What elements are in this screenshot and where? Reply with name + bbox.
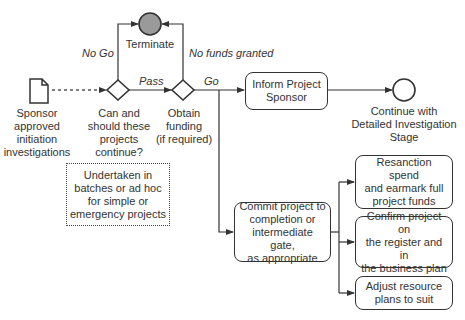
end-circle xyxy=(393,79,415,101)
decision-funding-label: Obtain funding (if required) xyxy=(153,107,215,146)
adjust-box: Adjust resource plans to suit xyxy=(355,276,453,310)
end-label: Continue with Detailed Investigation Sta… xyxy=(344,105,464,144)
edge-label-pass: Pass xyxy=(139,75,163,88)
start-label: Sponsor approved initiation investigatio… xyxy=(2,107,72,159)
document-icon xyxy=(30,79,48,103)
edge-label-no-funds: No funds granted xyxy=(189,47,273,60)
decision-diamond-funding xyxy=(172,80,194,100)
terminate-label: Terminate xyxy=(120,38,180,51)
decision-continue-label: Can and should these projects continue? xyxy=(83,107,155,159)
inform-sponsor-box: Inform Project Sponsor xyxy=(245,72,328,110)
commit-box: Commit project to completion or intermed… xyxy=(234,202,331,262)
note-box: Undertaken in batches or ad hoc for simp… xyxy=(66,163,170,226)
edge-label-go: Go xyxy=(204,75,219,88)
confirm-box: Confirm project on the register and in t… xyxy=(355,216,453,268)
edge-label-no-go: No Go xyxy=(82,47,114,60)
terminate-circle xyxy=(139,13,161,35)
process-diagram: Sponsor approved initiation investigatio… xyxy=(0,0,465,320)
resanction-box: Resanction spend and earmark full projec… xyxy=(355,155,453,209)
decision-diamond-continue xyxy=(107,80,129,100)
